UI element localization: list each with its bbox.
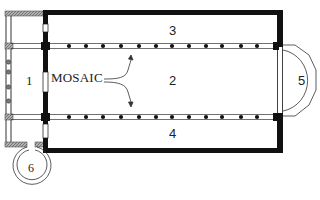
colonnade-south: [11, 113, 279, 121]
label-mosaic: MOSAIC: [51, 70, 103, 86]
label-narthex: 1: [26, 74, 33, 87]
label-apse: 5: [298, 74, 305, 87]
colonnade-north: [11, 42, 279, 50]
mosaic-arrows: [104, 55, 133, 107]
label-north-aisle: 3: [169, 24, 176, 37]
narthex-columns: [6, 60, 10, 103]
narthex-walls: [5, 11, 45, 147]
label-baptistery: 6: [28, 162, 34, 174]
label-nave: 2: [169, 74, 176, 87]
floor-plan: [0, 0, 320, 200]
apse-opening: [278, 47, 283, 113]
label-south-aisle: 4: [169, 127, 176, 140]
